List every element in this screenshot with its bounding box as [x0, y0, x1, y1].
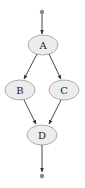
node-d[interactable]: D	[27, 125, 57, 145]
flow-diagram: A B C D	[0, 0, 85, 188]
node-b-label: B	[16, 85, 23, 96]
end-node	[40, 174, 44, 178]
edge-b-d	[24, 100, 36, 124]
edge-a-c	[49, 54, 61, 79]
node-a-label: A	[38, 40, 47, 51]
edge-c-d	[49, 100, 61, 124]
node-b[interactable]: B	[5, 80, 35, 100]
node-c[interactable]: C	[49, 80, 79, 100]
node-c-label: C	[60, 85, 68, 96]
edge-a-b	[24, 54, 37, 79]
node-d-label: D	[38, 130, 46, 141]
start-node	[40, 10, 44, 14]
node-a[interactable]: A	[28, 35, 58, 55]
